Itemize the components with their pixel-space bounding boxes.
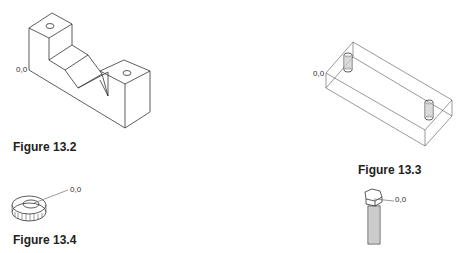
figure-caption: Figure 13.3 <box>358 163 421 177</box>
figure-13-3-drawing: 0,0 <box>280 40 459 150</box>
figure-13-2-drawing: 0,0 <box>0 0 200 135</box>
figure-13-4-drawing: 0,0 <box>10 185 90 230</box>
origin-label: 0,0 <box>395 195 406 204</box>
v-block-icon <box>0 0 200 135</box>
origin-label: 0,0 <box>16 65 27 74</box>
origin-label: 0,0 <box>70 185 81 194</box>
figure-caption: Figure 13.4 <box>13 233 76 247</box>
block-with-holes-icon <box>280 40 459 150</box>
origin-label: 0,0 <box>313 69 324 78</box>
figure-caption: Figure 13.2 <box>13 140 76 154</box>
bolt-drawing: 0,0 <box>360 188 450 250</box>
